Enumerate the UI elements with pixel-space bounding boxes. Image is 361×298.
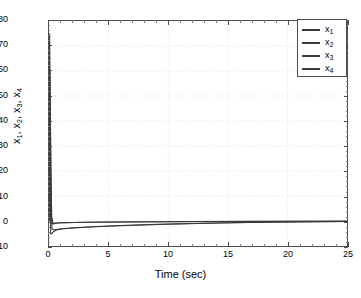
x-minor-tick [204, 244, 205, 247]
legend-item-label: x3 [325, 51, 333, 60]
legend-line-swatch [302, 55, 320, 57]
x-minor-tick [156, 244, 157, 247]
x-minor-tick [264, 244, 265, 247]
legend-item-x1[interactable]: x1 [298, 23, 346, 36]
x-tick-mark [288, 20, 289, 25]
x-tick-mark [108, 20, 109, 25]
y-tick-label: -10 [0, 242, 8, 251]
legend-line-swatch [302, 68, 320, 70]
x-minor-tick [216, 20, 217, 23]
x-minor-tick [72, 244, 73, 247]
x-minor-tick [192, 244, 193, 247]
y-tick-mark [48, 96, 52, 97]
y-minor-tick [346, 131, 348, 132]
y-minor-tick [48, 217, 50, 218]
y-tick-label: 0 [0, 217, 8, 226]
y-minor-tick [346, 212, 348, 213]
x-minor-tick [156, 20, 157, 23]
y-minor-tick [48, 116, 50, 117]
y-minor-tick [346, 151, 348, 152]
y-minor-tick [48, 35, 50, 36]
x-tick-mark [228, 242, 229, 247]
x-tick-label: 10 [153, 250, 183, 259]
legend-item-x4[interactable]: x4 [298, 62, 346, 75]
y-minor-tick [48, 75, 50, 76]
x-minor-tick [324, 244, 325, 247]
y-minor-tick [346, 101, 348, 102]
y-tick-label: 60 [0, 65, 8, 74]
y-minor-tick [346, 207, 348, 208]
chart-figure: -1001020304050607080 0510152025 x1, x2, … [0, 0, 361, 298]
y-minor-tick [48, 81, 50, 82]
y-minor-tick [48, 30, 50, 31]
y-tick-mark [48, 197, 52, 198]
x-minor-tick [216, 244, 217, 247]
x-minor-tick [96, 20, 97, 23]
y-minor-tick [346, 136, 348, 137]
y-tick-mark [48, 146, 52, 147]
y-minor-tick [346, 237, 348, 238]
y-minor-tick [48, 40, 50, 41]
x-minor-tick [84, 244, 85, 247]
y-minor-tick [48, 65, 50, 66]
x-minor-tick [144, 20, 145, 23]
x-tick-mark [168, 20, 169, 25]
y-minor-tick [48, 207, 50, 208]
y-tick-mark [48, 171, 52, 172]
y-tick-mark [344, 146, 348, 147]
y-minor-tick [346, 156, 348, 157]
y-tick-mark [48, 70, 52, 71]
x-tick-mark [168, 242, 169, 247]
y-minor-tick [48, 50, 50, 51]
x-tick-mark [228, 20, 229, 25]
y-tick-label: 40 [0, 116, 8, 125]
x-minor-tick [120, 244, 121, 247]
y-minor-tick [346, 186, 348, 187]
y-minor-tick [346, 141, 348, 142]
y-minor-tick [48, 101, 50, 102]
y-tick-label: 80 [0, 15, 8, 24]
x-minor-tick [252, 20, 253, 23]
y-tick-mark [48, 45, 52, 46]
y-minor-tick [346, 116, 348, 117]
legend-item-x3[interactable]: x3 [298, 49, 346, 62]
x-minor-tick [276, 20, 277, 23]
y-tick-label: 20 [0, 166, 8, 175]
y-minor-tick [48, 237, 50, 238]
y-minor-tick [48, 202, 50, 203]
x-minor-tick [84, 20, 85, 23]
y-minor-tick [48, 111, 50, 112]
y-minor-tick [346, 181, 348, 182]
y-tick-label: 30 [0, 141, 8, 150]
y-minor-tick [346, 161, 348, 162]
x-minor-tick [132, 20, 133, 23]
y-minor-tick [48, 212, 50, 213]
x-tick-label: 20 [273, 250, 303, 259]
y-minor-tick [48, 176, 50, 177]
y-tick-mark [344, 171, 348, 172]
y-minor-tick [346, 227, 348, 228]
x-axis-label: Time (sec) [0, 268, 361, 280]
y-tick-mark [344, 197, 348, 198]
y-minor-tick [346, 111, 348, 112]
x-minor-tick [60, 244, 61, 247]
y-minor-tick [48, 151, 50, 152]
series-x4 [49, 146, 347, 224]
y-tick-mark [48, 121, 52, 122]
y-minor-tick [48, 106, 50, 107]
y-minor-tick [48, 227, 50, 228]
y-minor-tick [48, 136, 50, 137]
y-minor-tick [346, 126, 348, 127]
x-minor-tick [240, 20, 241, 23]
legend-item-x2[interactable]: x2 [298, 36, 346, 49]
x-minor-tick [180, 244, 181, 247]
x-minor-tick [72, 20, 73, 23]
y-minor-tick [346, 81, 348, 82]
series-x2 [49, 71, 347, 230]
y-minor-tick [346, 166, 348, 167]
y-minor-tick [346, 192, 348, 193]
y-minor-tick [48, 192, 50, 193]
y-tick-mark [344, 96, 348, 97]
y-tick-mark [344, 222, 348, 223]
legend-line-swatch [302, 29, 320, 31]
